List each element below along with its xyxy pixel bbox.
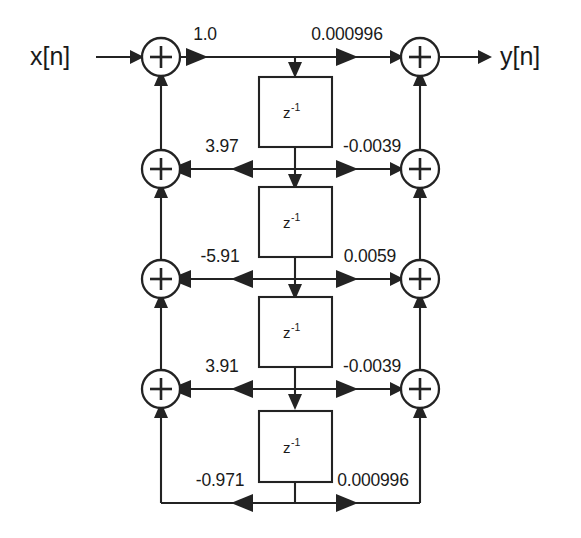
delay-block-1: z -1 [259,77,332,169]
delay-block-2-base: z [283,214,291,231]
delay-block-3-base: z [283,324,291,341]
top-right-arrowhead [336,48,358,66]
row1-right-arrowhead [336,160,358,178]
delay-block-4-exponent: -1 [291,436,300,448]
signal-flow-diagram: x[n] y[n] 1.0 0.000996 3.97 -0.0039 [0,0,581,538]
feedback-label-1: 3.97 [205,136,238,156]
flowgraph-canvas: x[n] y[n] 1.0 0.000996 3.97 -0.0039 [0,0,581,538]
delay-block-1-exponent: -1 [291,101,300,113]
delay-block-2-exponent: -1 [291,211,300,223]
input-label: x[n] [30,42,70,70]
adder-left-1 [142,150,180,188]
tap-arrowhead-3 [288,394,302,410]
row1-left-arrowhead [231,160,253,178]
adder-left-2 [142,260,180,298]
output-arrowhead [478,50,492,64]
feedback-label-0: 1.0 [193,24,217,44]
feedback-label-4: -0.971 [196,470,244,490]
row2-right-arrowhead [336,270,358,288]
adder-right-2 [401,260,439,298]
top-left-arrowhead [186,48,208,66]
feedback-label-2: -5.91 [201,246,240,266]
delay-block-4-base: z [283,439,291,456]
delay-block-3-exponent: -1 [291,321,300,333]
adder-left-3 [142,370,180,408]
feedforward-label-3: -0.0039 [343,356,401,376]
delay-block-2: z -1 [259,187,332,279]
feedforward-label-1: -0.0039 [343,136,401,156]
adder-right-1 [401,150,439,188]
feedforward-label-4: 0.000996 [337,470,408,490]
delay-block-4: z -1 [259,411,332,482]
delay-block-3: z -1 [259,297,332,389]
delay-block-1-base: z [283,104,291,121]
row3-left-arrowhead [231,380,253,398]
adder-right-3 [401,370,439,408]
bottom-right-arrowhead [336,494,358,512]
feedforward-label-2: 0.0059 [344,246,396,266]
adder-left-0 [142,38,180,76]
row2-left-arrowhead [231,270,253,288]
bottom-left-arrowhead [231,494,253,512]
output-label: y[n] [500,42,540,70]
adder-right-0 [401,38,439,76]
feedback-label-3: 3.91 [205,356,238,376]
row3-right-arrowhead [336,380,358,398]
feedforward-label-0: 0.000996 [311,24,382,44]
tap-arrowhead-0 [288,62,302,78]
